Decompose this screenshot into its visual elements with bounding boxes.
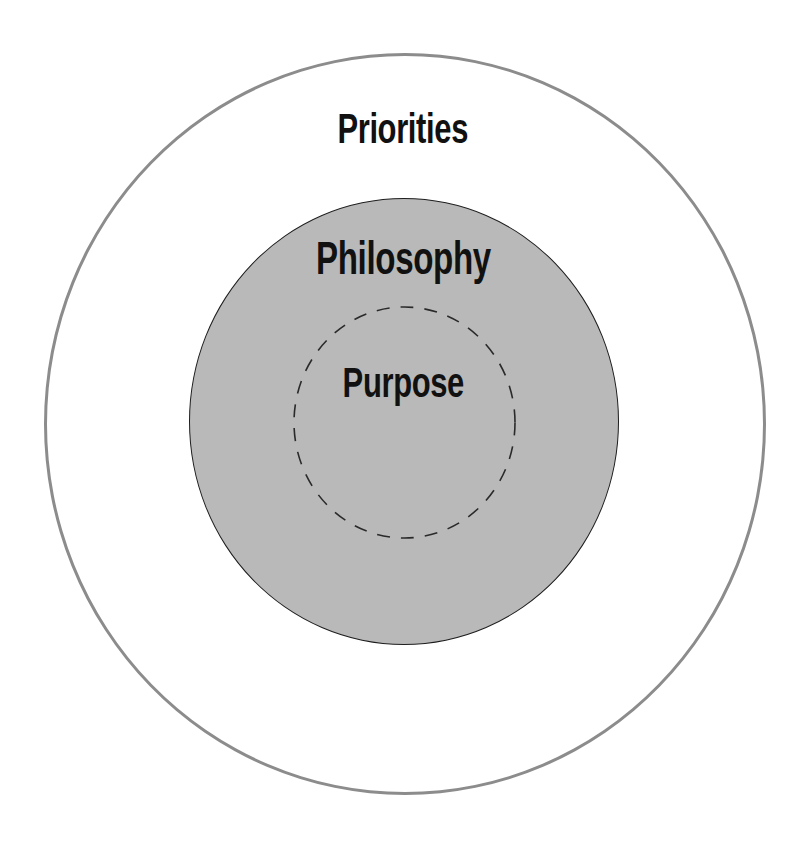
priorities-label: Priorities	[0, 107, 806, 150]
purpose-label-text: Purpose	[342, 361, 463, 404]
inner-dashed-circle-purpose	[292, 305, 517, 540]
priorities-label-text: Priorities	[338, 107, 469, 150]
purpose-label: Purpose	[0, 361, 806, 404]
philosophy-label-text: Philosophy	[316, 235, 491, 281]
philosophy-label: Philosophy	[0, 235, 806, 281]
nested-circles-diagram: Priorities Philosophy Purpose	[0, 0, 806, 851]
